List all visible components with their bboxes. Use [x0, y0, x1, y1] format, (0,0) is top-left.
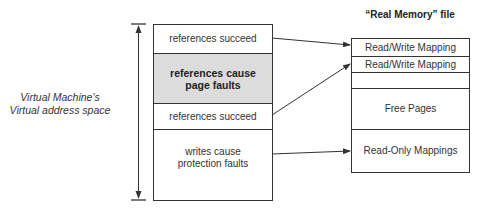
real-memory-box: Read/Write Mapping Read/Write Mapping Fr…: [351, 38, 470, 173]
segment-rw-mapping-2: Read/Write Mapping: [352, 56, 469, 72]
virtual-address-space-box: references succeed references cause page…: [153, 24, 273, 201]
segment-protection-faults: writes cause protection faults: [154, 129, 272, 200]
arrow-rw-mapping-1: [272, 38, 350, 45]
page-faults-line-1: references cause: [170, 67, 256, 79]
segment-rw-mapping-1: Read/Write Mapping: [352, 39, 469, 56]
segment-free-pages: Free Pages: [352, 88, 469, 129]
page-faults-line-2: page faults: [185, 79, 240, 91]
address-space-extent-arrow: [131, 24, 146, 200]
segment-references-succeed-1: references succeed: [154, 25, 272, 53]
real-memory-title: “Real Memory” file: [355, 9, 465, 20]
arrow-rw-mapping-2: [272, 64, 350, 115]
segment-references-succeed-2: references succeed: [154, 103, 272, 129]
protection-faults-line-2: protection faults: [178, 158, 249, 169]
segment-page-faults: references cause page faults: [154, 53, 272, 103]
virtual-address-space-label: Virtual Machine's Virtual address space: [4, 91, 116, 117]
label-line-2: Virtual address space: [4, 104, 116, 117]
segment-read-only-mappings: Read-Only Mappings: [352, 129, 469, 172]
arrow-ro-mapping: [272, 151, 350, 154]
segment-empty: [352, 72, 469, 88]
protection-faults-line-1: writes cause: [185, 146, 241, 157]
label-line-1: Virtual Machine's: [4, 91, 116, 104]
